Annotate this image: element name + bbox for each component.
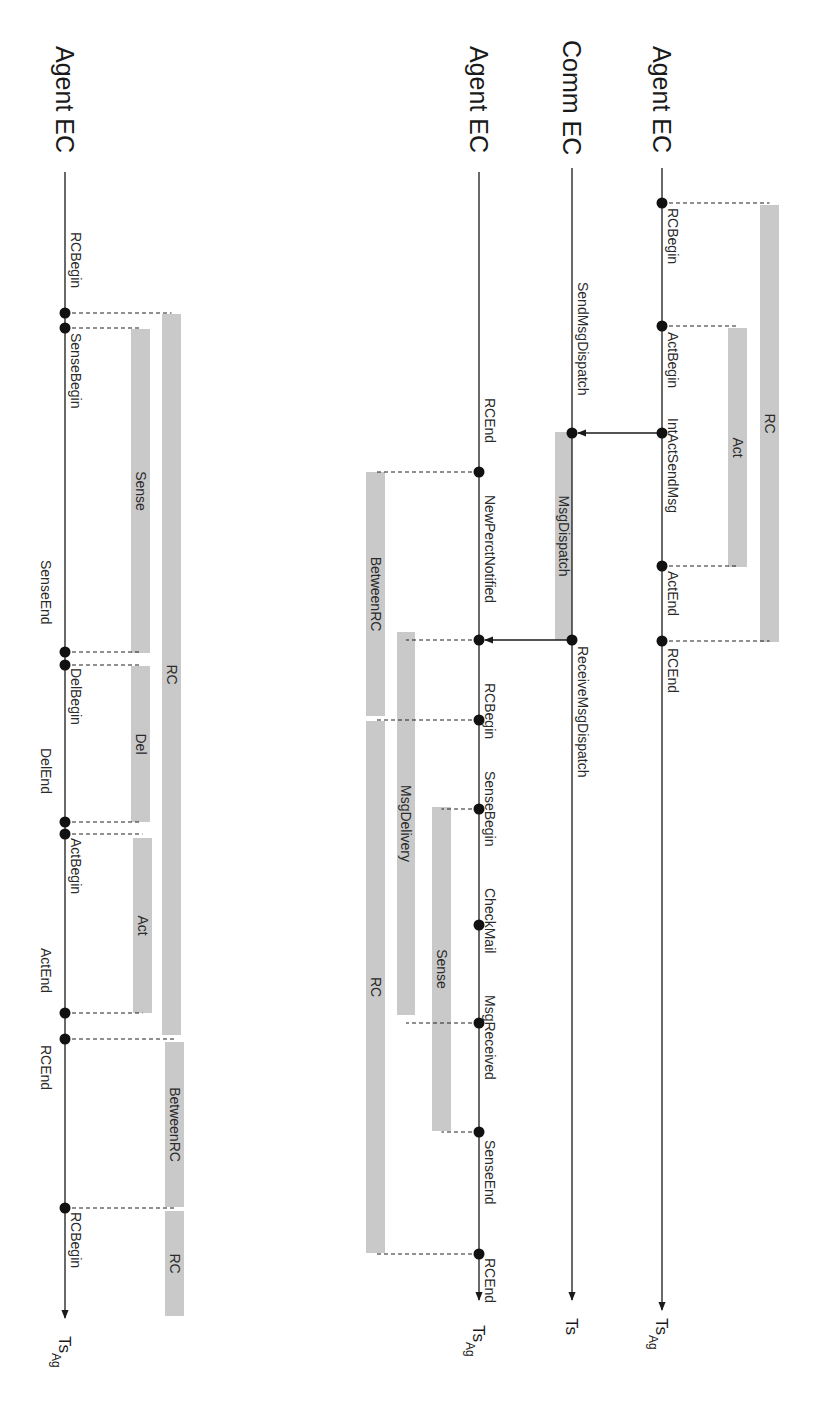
event-dot-rcend xyxy=(657,636,668,647)
event-label: SenseBegin xyxy=(482,771,498,847)
event-label: DelEnd xyxy=(38,748,54,794)
event-dot-actend xyxy=(60,1008,71,1019)
event-label: RCEnd xyxy=(482,1258,498,1303)
phase-bar-label: BetweenRC xyxy=(167,1087,183,1162)
event-label: ReceiveMsgDispatch xyxy=(575,646,591,778)
phase-bar-label: MsgDelivery xyxy=(398,785,414,862)
event-label: SenseEnd xyxy=(482,1140,498,1205)
time-axis-label: TsAg xyxy=(49,1336,74,1368)
event-dot-rcend xyxy=(60,1034,71,1045)
event-label: NewPerctNotified xyxy=(482,495,498,603)
event-label: SenseEnd xyxy=(38,560,54,625)
event-dot-rcend xyxy=(474,467,485,478)
phase-bar-label: RC xyxy=(164,664,180,684)
event-dot-delend xyxy=(60,817,71,828)
event-label: RCBegin xyxy=(68,1212,84,1268)
phase-bar-label: RC xyxy=(167,1253,183,1273)
phase-bar-label: Del xyxy=(133,733,149,754)
time-axis-label: TsAg xyxy=(463,1325,488,1357)
phase-bar-label: Sense xyxy=(434,949,450,989)
event-label: IntActSendMsg xyxy=(665,418,681,513)
phase-bar-label: Act xyxy=(135,915,151,935)
phase-bar-label: MsgDispatch xyxy=(556,496,572,577)
timeline-axes xyxy=(65,168,662,1318)
timeline-title: Agent EC xyxy=(465,46,493,153)
time-axis-label: TsAg xyxy=(646,1318,671,1350)
phase-bar-label: Sense xyxy=(133,471,149,511)
timeline-title: Agent EC xyxy=(51,46,79,153)
event-label: ActBegin xyxy=(68,838,84,894)
event-dot-senseend xyxy=(474,1127,485,1138)
event-label: DelBegin xyxy=(68,668,84,725)
event-dot-newperctnotified xyxy=(474,635,485,646)
event-label: SenseBegin xyxy=(68,333,84,409)
event-dot-rcbegin xyxy=(657,198,668,209)
event-label: RCEnd xyxy=(482,398,498,443)
event-dot-actbegin xyxy=(657,321,668,332)
event-label: ActBegin xyxy=(665,332,681,388)
event-label: ActEnd xyxy=(38,948,54,993)
event-dot-rcbegin xyxy=(60,308,71,319)
event-label: RCEnd xyxy=(38,1045,54,1090)
time-axis-label: Ts xyxy=(562,1318,581,1335)
timeline-title: Comm EC xyxy=(558,40,586,155)
event-dot-actend xyxy=(657,561,668,572)
event-dot-sensebegin xyxy=(60,323,71,334)
message-arrows xyxy=(485,433,662,640)
event-label: SendMsgDispatch xyxy=(575,282,591,396)
phase-bar-label: RC xyxy=(368,977,384,997)
event-dot-senseend xyxy=(60,647,71,658)
event-label: RCBegin xyxy=(482,683,498,739)
phase-bar-label: BetweenRC xyxy=(368,557,384,632)
event-label: RCEnd xyxy=(665,648,681,693)
execution-timeline-diagram: Agent ECTsAgRCActRCBeginActBeginIntActSe… xyxy=(0,0,820,1409)
event-label: ActEnd xyxy=(665,571,681,616)
phase-bar-label: RC xyxy=(762,413,778,433)
phase-bar-label: Act xyxy=(730,437,746,457)
event-label: RCBegin xyxy=(68,232,84,288)
event-dot-sendmsgdispatch xyxy=(567,428,578,439)
event-dot-receivemsgdispatch xyxy=(567,635,578,646)
event-label: RCBegin xyxy=(665,208,681,264)
event-label: CheckMail xyxy=(482,888,498,953)
event-label: MsgReceived xyxy=(482,995,498,1080)
timeline-title: Agent EC xyxy=(648,46,676,153)
